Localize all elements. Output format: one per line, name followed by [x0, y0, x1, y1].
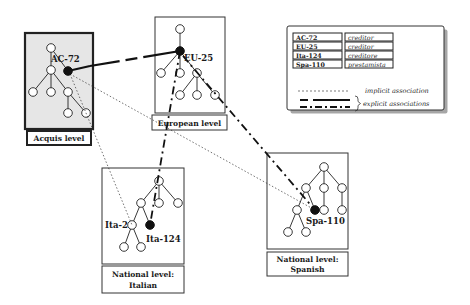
tree-node [176, 91, 185, 100]
tree-node [29, 88, 38, 97]
tree-node [302, 228, 311, 237]
italian-level-label-line1: National level: [112, 270, 174, 279]
concept-label-spa-110: Spa-110 [306, 216, 345, 226]
concept-node-ita-2 [128, 221, 137, 230]
legend-term: creditor [348, 34, 375, 41]
tree-node [157, 69, 166, 78]
tree-node [338, 206, 347, 215]
tree-node [137, 243, 146, 252]
tree-node [320, 184, 329, 193]
tree-node [64, 88, 73, 97]
tree-node [47, 88, 56, 97]
tree-node [47, 44, 56, 53]
concept-node-spa-110 [311, 206, 320, 215]
spanish-level-panel: National level: Spanish [267, 153, 348, 276]
tree-node [320, 163, 329, 172]
tree-node [64, 109, 73, 118]
legend-concept-id: Spa-110 [296, 61, 325, 69]
tree-node [320, 206, 329, 215]
legend-term: prestamista [348, 61, 386, 69]
legend-term: creditore [348, 52, 378, 59]
tree-node [47, 66, 56, 75]
acquis-level-panel: Acquis level [25, 33, 93, 145]
spanish-level-label-line2: Spanish [291, 265, 325, 274]
concept-label-ita-2: Ita-2 [105, 220, 128, 230]
european-level-panel: European level [152, 17, 227, 130]
concept-label-ac-72: AC-72 [50, 54, 80, 64]
tree-node [338, 184, 347, 193]
spanish-level-label-line1: National level: [277, 255, 339, 264]
tree-node [120, 243, 129, 252]
concept-label-ita-124: Ita-124 [146, 234, 181, 244]
tree-node [284, 228, 293, 237]
tree-node [293, 206, 302, 215]
concept-node-ac-72 [64, 67, 73, 76]
legend-term: creditor [348, 43, 375, 50]
concept-node-ita-124 [146, 221, 155, 230]
italian-level-label-line2: Italian [129, 281, 158, 290]
tree-node [302, 184, 311, 193]
concept-label-eu-25: EU-25 [184, 53, 213, 63]
tree-node [174, 199, 183, 208]
italian-level-panel: National level: Italian [102, 168, 184, 293]
legend-concept-id: Ita-124 [296, 52, 322, 59]
legend: AC-72 creditor EU-25 creditor Ita-124 cr… [287, 26, 448, 114]
legend-concept-id: EU-25 [296, 43, 318, 50]
concept-node-eu-25 [176, 47, 185, 56]
legend-implicit-label: implicit association [365, 87, 429, 95]
multilingual-concept-diagram: Acquis level European level [0, 0, 470, 305]
tree-node [193, 91, 202, 100]
tree-node [155, 199, 164, 208]
legend-explicit-label: explicit associations [363, 100, 430, 108]
tree-node [137, 199, 146, 208]
legend-concept-id: AC-72 [295, 34, 317, 41]
acquis-level-label: Acquis level [33, 134, 85, 143]
tree-node [176, 25, 185, 34]
